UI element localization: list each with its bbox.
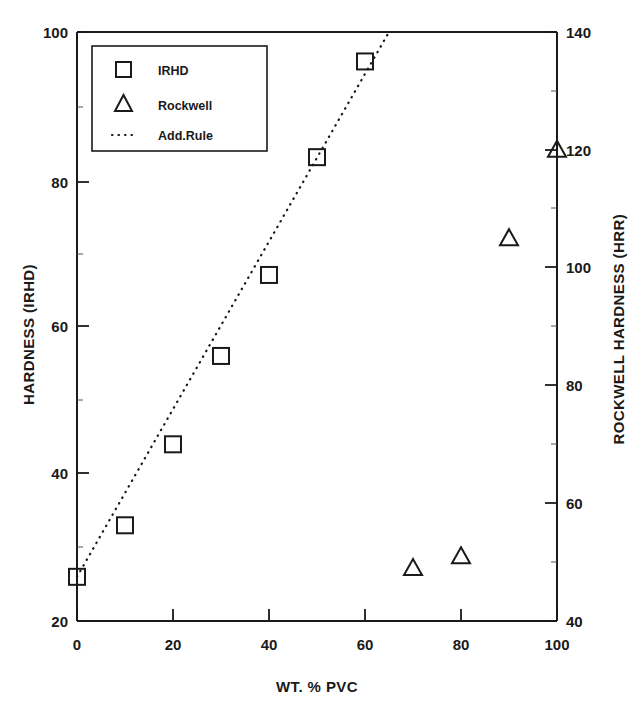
- right-tick-label: 120: [566, 142, 591, 159]
- x-tick-label: 20: [165, 636, 182, 653]
- x-tick-label: 40: [261, 636, 278, 653]
- data-point-square: [213, 348, 229, 364]
- right-tick-label: 100: [566, 259, 591, 276]
- left-tick-labels: 20 40 60 80 100: [43, 24, 68, 630]
- data-point-triangle: [500, 229, 518, 245]
- x-tick-label: 80: [453, 636, 470, 653]
- right-tick-labels: 40 60 80 100 120 140: [566, 24, 591, 630]
- x-tick-label: 60: [357, 636, 374, 653]
- legend-label-rockwell: Rockwell: [158, 99, 212, 113]
- left-axis-ticks: [77, 32, 89, 621]
- x-axis-title: WT. % PVC: [77, 678, 557, 695]
- legend-label-irhd: IRHD: [158, 64, 189, 78]
- y-axis-title-right: ROCKWELL HARDNESS (HRR): [610, 225, 627, 445]
- x-axis-ticks: [77, 609, 557, 621]
- data-point-square: [165, 436, 181, 452]
- plot-canvas: 20 40 60 80 100 40 60 80 100 120 140 0 2…: [0, 0, 642, 717]
- data-point-square: [357, 53, 373, 69]
- x-tick-labels: 0 20 40 60 80 100: [73, 636, 570, 653]
- legend-label-add-rule: Add.Rule: [158, 129, 213, 143]
- left-tick-label: 80: [51, 174, 68, 191]
- data-point-square: [117, 517, 133, 533]
- data-point-triangle: [404, 559, 422, 575]
- data-point-square: [309, 149, 325, 165]
- legend: IRHD Rockwell Add.Rule: [92, 46, 267, 151]
- y-axis-title-left: HARDNESS (IRHD): [20, 225, 37, 445]
- data-point-triangle: [452, 547, 470, 563]
- left-tick-label: 60: [51, 318, 68, 335]
- x-tick-label: 100: [544, 636, 569, 653]
- left-tick-label: 100: [43, 24, 68, 41]
- right-tick-label: 60: [566, 495, 583, 512]
- right-tick-label: 40: [566, 613, 583, 630]
- x-tick-label: 0: [73, 636, 81, 653]
- data-point-square: [261, 267, 277, 283]
- right-tick-label: 140: [566, 24, 591, 41]
- left-tick-label: 40: [51, 465, 68, 482]
- left-tick-label: 20: [51, 613, 68, 630]
- right-tick-label: 80: [566, 377, 583, 394]
- chart-figure: 20 40 60 80 100 40 60 80 100 120 140 0 2…: [0, 0, 642, 717]
